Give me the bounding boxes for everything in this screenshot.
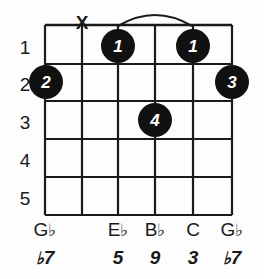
flat-icon-string-3: ♭: [120, 221, 128, 240]
fret-number-3: 3: [14, 113, 36, 132]
interval-flat-icon-string-6: ♭: [223, 249, 231, 268]
flat-icon-string-4: ♭: [157, 221, 165, 240]
note-name-string-4: B: [145, 219, 158, 240]
interval-label-string-6: ♭7: [210, 248, 254, 267]
finger-dot-label-string-5: 1: [176, 38, 210, 55]
interval-number-string-3: 5: [113, 247, 124, 268]
finger-dot-string-3[interactable]: 1: [101, 29, 135, 63]
note-label-string-6: G♭: [210, 220, 254, 239]
finger-dot-label-string-1: 2: [29, 74, 63, 91]
note-label-string-5: C: [171, 220, 215, 239]
interval-number-string-5: 3: [188, 247, 199, 268]
fret-number-1: 1: [14, 38, 36, 57]
interval-number-string-4: 9: [150, 247, 161, 268]
note-label-string-1: G♭: [23, 220, 67, 239]
flat-icon-string-6: ♭: [235, 221, 243, 240]
mute-x-icon: X: [70, 13, 94, 32]
interval-number-string-1: 7: [44, 247, 55, 268]
finger-dot-string-6[interactable]: 3: [215, 65, 249, 99]
finger-dot-label-string-4: 4: [138, 112, 172, 129]
finger-dot-string-4[interactable]: 4: [138, 103, 172, 137]
finger-dot-label-string-6: 3: [215, 74, 249, 91]
fret-number-4: 4: [14, 151, 36, 170]
interval-label-string-1: ♭7: [23, 248, 67, 267]
note-name-string-3: E: [108, 219, 121, 240]
interval-flat-icon-string-1: ♭: [36, 249, 44, 268]
interval-label-string-5: 3: [171, 248, 215, 267]
note-name-string-6: G: [221, 219, 236, 240]
finger-dot-string-5[interactable]: 1: [176, 29, 210, 63]
note-name-string-5: C: [186, 219, 200, 240]
finger-dot-string-1[interactable]: 2: [29, 65, 63, 99]
flat-icon-string-1: ♭: [48, 221, 56, 240]
note-name-string-1: G: [34, 219, 49, 240]
interval-number-string-6: 7: [231, 247, 242, 268]
finger-dot-label-string-3: 1: [101, 38, 135, 55]
fret-number-5: 5: [14, 189, 36, 208]
